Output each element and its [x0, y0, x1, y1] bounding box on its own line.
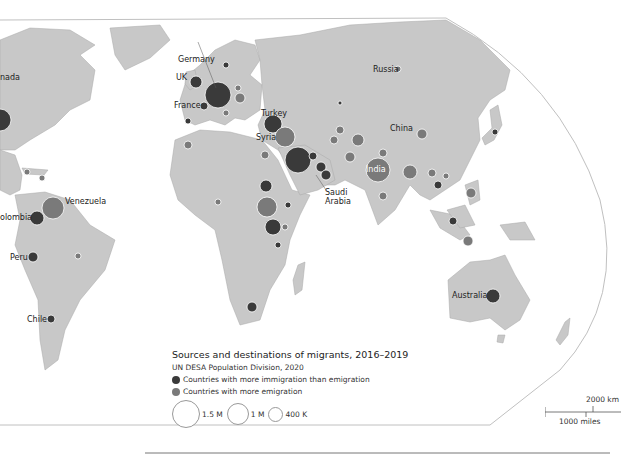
label-russia: Russia — [373, 66, 399, 74]
immigration-swatch-icon — [172, 376, 180, 384]
bubble-vietnam — [443, 173, 449, 179]
bubble-syria — [275, 127, 295, 147]
bubble-brazil — [75, 253, 81, 259]
label-colombia: olombia — [0, 214, 32, 222]
bubble-ethiopia — [285, 202, 291, 208]
bubble-kenya — [282, 224, 288, 230]
bubble-egypt — [261, 151, 269, 159]
bubble-philippines — [466, 188, 476, 198]
bubble-sweden — [223, 62, 229, 68]
scale-miles-label: 1000 miles — [559, 417, 600, 426]
bubble-kuwait — [309, 152, 317, 160]
bubble-south-sudan — [257, 197, 277, 217]
label-venezuela: Venezuela — [65, 198, 106, 206]
bubble-haiti — [39, 175, 45, 181]
bubble-chile — [47, 315, 55, 323]
legend-size-scale: 1.5 M 1 M 400 K — [172, 400, 408, 428]
bubble-peru — [28, 252, 38, 262]
label-saudi-arabia-1: Saudi — [325, 189, 347, 197]
label-syria: Syria — [256, 134, 276, 142]
label-china: China — [390, 125, 413, 133]
bubble-colombia — [30, 211, 44, 225]
legend-title: Sources and destinations of migrants, 20… — [172, 349, 408, 360]
bubble-pakistan — [345, 152, 355, 162]
bubble-tanzania — [275, 242, 281, 248]
bubble-indonesia — [463, 236, 473, 246]
bubble-cuba — [24, 169, 30, 175]
label-saudi-arabia-2: Arabia — [325, 198, 351, 206]
bubble-france — [200, 102, 208, 110]
bubble-malaysia — [449, 217, 457, 225]
bubble-sri-lanka — [379, 192, 387, 200]
label-india: India — [366, 166, 386, 174]
bubble-spain — [185, 118, 191, 124]
size-label: 400 K — [285, 410, 307, 419]
legend-item-label: Countries with more immigration than emi… — [183, 375, 370, 384]
bubble-bangladesh — [403, 165, 417, 179]
size-circle-icon — [172, 400, 200, 428]
label-australia: Australia — [452, 292, 487, 300]
legend-item-immigration: Countries with more immigration than emi… — [172, 375, 408, 384]
legend-subtitle: UN DESA Population Division, 2020 — [172, 363, 408, 372]
legend: Sources and destinations of migrants, 20… — [172, 349, 408, 428]
bubble-uzbekistan — [336, 126, 344, 134]
bubble-venezuela — [42, 197, 64, 219]
label-canada: nada — [0, 74, 20, 82]
bubble-myanmar — [428, 169, 436, 177]
bubble-china — [417, 129, 427, 139]
bubble-germany — [205, 82, 231, 108]
bubble-oman — [321, 170, 331, 180]
bubble-japan — [492, 129, 498, 135]
bubble-morocco — [184, 141, 192, 149]
bubble-saudi-arabia — [285, 147, 311, 173]
bubble-uk — [190, 76, 202, 88]
bubble-romania — [235, 93, 245, 103]
label-turkey: Turkey — [261, 110, 287, 118]
bubble-poland — [235, 85, 241, 91]
size-label: 1 M — [251, 410, 265, 419]
bubble-thailand — [434, 181, 442, 189]
scale-bar: 2000 km 1000 miles — [545, 395, 621, 430]
bubble-australia — [486, 289, 500, 303]
bubble-kazakhstan — [338, 101, 342, 105]
landmasses — [0, 20, 570, 370]
bubble-italy — [223, 110, 229, 116]
bubble-afghanistan — [352, 134, 364, 146]
label-uk: UK — [176, 74, 187, 82]
label-peru: Peru — [10, 254, 28, 262]
bubble-sudan — [260, 180, 272, 192]
label-chile: Chile — [27, 316, 47, 324]
legend-item-emigration: Countries with more emigration — [172, 387, 408, 396]
legend-item-label: Countries with more emigration — [183, 387, 302, 396]
size-circle-icon — [268, 407, 283, 422]
size-circle-icon — [227, 403, 249, 425]
bubble-uganda — [265, 219, 281, 235]
bubble-nigeria — [215, 199, 221, 205]
label-germany: Germany — [178, 56, 215, 64]
size-label: 1.5 M — [202, 410, 223, 419]
label-france: France — [174, 102, 201, 110]
bubble-nepal — [379, 149, 387, 157]
bubble-south-africa — [247, 302, 257, 312]
emigration-swatch-icon — [172, 388, 180, 396]
bubble-iran — [330, 136, 338, 144]
